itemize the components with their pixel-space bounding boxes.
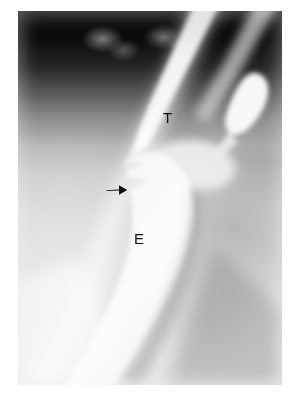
radiograph-image: T E (18, 11, 282, 385)
fistula-arrow-icon (106, 184, 128, 196)
esophagus-label: E (134, 231, 144, 246)
radiograph-figure: T E (0, 0, 298, 397)
trachea-label: T (163, 110, 172, 125)
film-edge-vignette (18, 11, 282, 385)
